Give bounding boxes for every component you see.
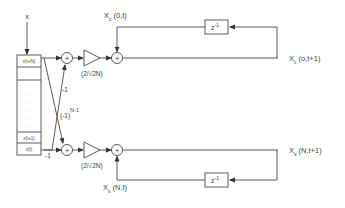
top-gain-label: (2/√2N)	[81, 70, 103, 78]
coef-bottom: (-1)N-1	[60, 107, 79, 120]
bottom-delay-label: z-1	[211, 175, 219, 184]
bottom-gain-triangle	[84, 142, 100, 158]
bottom-state-in-label: Xs(N,t)	[103, 183, 128, 194]
bottom-feedback-line	[230, 150, 277, 180]
register-cell-label: x(t)	[26, 147, 33, 152]
adder-plus: +	[65, 146, 70, 155]
input-label: x	[25, 12, 29, 21]
adder-plus: +	[65, 54, 70, 63]
register-cell-label: x(t+N)	[23, 59, 36, 64]
register-dot: ·	[28, 84, 30, 89]
cross-line-down	[44, 58, 63, 143]
register-dot: ·	[28, 124, 30, 129]
register-dot: ·	[28, 100, 30, 105]
bottom-state-out-label: Xs(N,t+1)	[289, 146, 322, 157]
adder-plus: +	[115, 146, 120, 155]
top-state-out-label: Xc(o,t+1)	[289, 54, 321, 65]
bottom-state-line	[117, 157, 205, 181]
register-dot: ·	[28, 92, 30, 97]
block-diagram: + + + + x x(t+N) · · · · · · x(t+1) x(t)…	[0, 0, 345, 208]
coef-top: -1	[62, 86, 68, 93]
top-feedback-line	[230, 27, 277, 58]
coef-bottom-direct: -1	[45, 152, 51, 159]
top-gain-triangle	[84, 50, 100, 66]
register-dot: ·	[28, 116, 30, 121]
top-delay-label: z-1	[211, 22, 219, 31]
adder-plus: +	[115, 54, 120, 63]
top-state-line	[117, 27, 205, 52]
bottom-gain-label: (2/√2N)	[81, 162, 103, 170]
top-state-in-label: Xc(0,t)	[104, 11, 127, 22]
register-cell-label: x(t+1)	[23, 136, 35, 141]
register-dot: ·	[28, 108, 30, 113]
